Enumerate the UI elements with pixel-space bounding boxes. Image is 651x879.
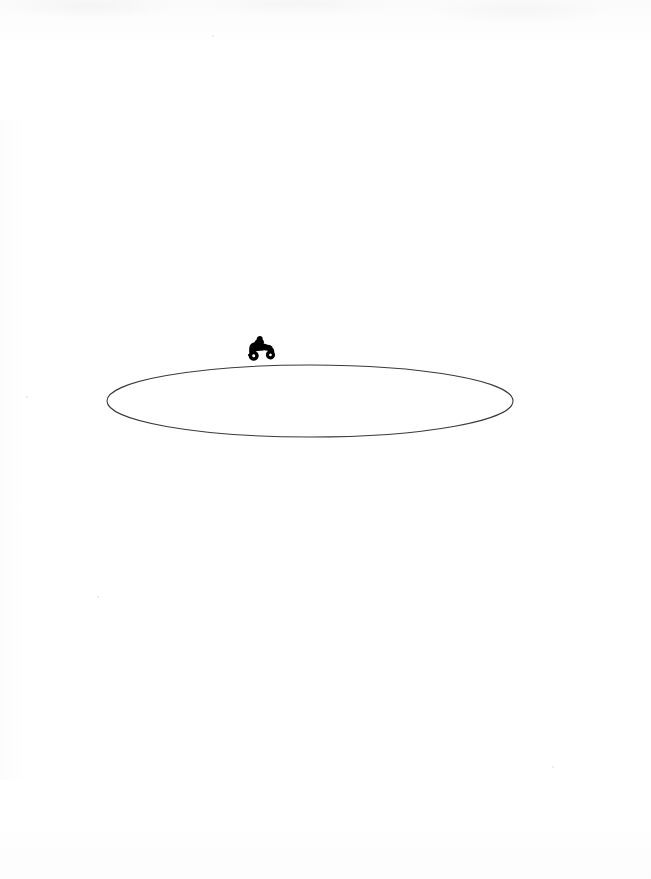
motorcycle-silhouette (247, 335, 276, 361)
drawing-page (0, 0, 651, 879)
artwork-canvas (0, 0, 651, 879)
track-ellipse (107, 365, 513, 437)
